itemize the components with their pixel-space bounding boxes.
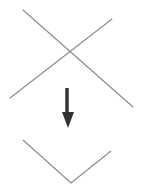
v-shape — [23, 140, 111, 183]
cross-line-1 — [23, 10, 133, 107]
arrow-head — [62, 112, 74, 128]
diagram-canvas — [0, 0, 151, 193]
cross-line-2 — [10, 19, 112, 98]
down-arrow-icon — [62, 88, 74, 128]
crossed-lines — [10, 10, 133, 107]
